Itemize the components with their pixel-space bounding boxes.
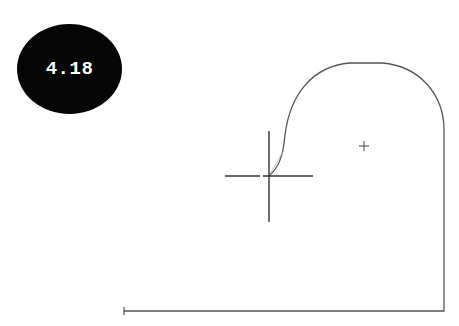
profile-polyline (124, 63, 444, 311)
rubberband-preview-line (269, 150, 284, 176)
crosshair-cursor-icon (225, 131, 313, 222)
cad-drawing-canvas[interactable] (0, 0, 459, 326)
arc-center-marker-icon (359, 141, 369, 151)
